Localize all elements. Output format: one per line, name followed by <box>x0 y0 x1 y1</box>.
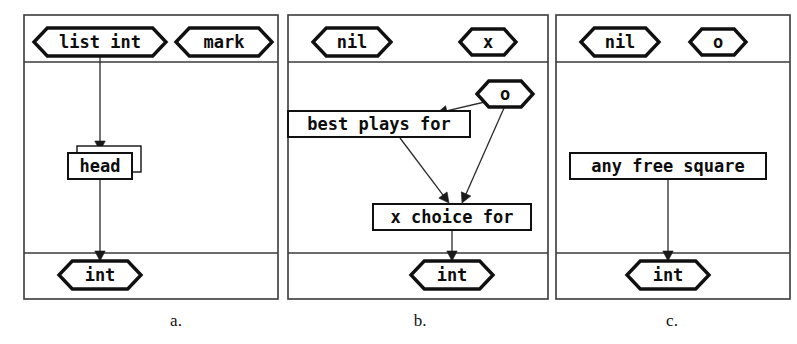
node-label-a-mark: mark <box>204 32 245 52</box>
node-b-nil[interactable]: nil <box>313 28 391 56</box>
figure-container: list intmarkheadinta.nilxobest plays for… <box>0 0 797 344</box>
node-label-b-o: o <box>500 84 510 104</box>
node-label-b-int: int <box>437 265 468 285</box>
node-b-int[interactable]: int <box>411 261 493 289</box>
node-label-a-list-int: list int <box>59 32 141 52</box>
node-a-mark[interactable]: mark <box>176 28 272 56</box>
node-b-x[interactable]: x <box>460 29 516 55</box>
panel-c: niloany free squareintc. <box>556 15 790 330</box>
node-label-c-any-free-square: any free square <box>591 156 745 176</box>
node-label-a-head: head <box>80 156 121 176</box>
node-a-head[interactable]: head <box>68 146 141 179</box>
node-c-int[interactable]: int <box>627 261 709 289</box>
panel-a-caption: a. <box>170 311 182 330</box>
node-label-a-int: int <box>85 265 116 285</box>
panel-b: nilxobest plays forx choice forintb. <box>288 15 548 330</box>
node-c-o[interactable]: o <box>690 29 746 55</box>
panel-b-caption: b. <box>414 311 427 330</box>
node-label-c-o: o <box>713 32 723 52</box>
node-label-c-nil: nil <box>605 32 636 52</box>
node-label-b-best-plays-for: best plays for <box>307 114 450 134</box>
panel-c-caption: c. <box>666 311 678 330</box>
node-c-any-free-square[interactable]: any free square <box>570 153 766 179</box>
node-label-c-int: int <box>653 265 684 285</box>
node-b-best-plays-for[interactable]: best plays for <box>288 111 470 137</box>
diagram-canvas: list intmarkheadinta.nilxobest plays for… <box>0 0 797 344</box>
node-label-b-x-choice-for: x choice for <box>391 207 514 227</box>
node-b-x-choice-for[interactable]: x choice for <box>373 204 531 230</box>
node-a-int[interactable]: int <box>59 261 141 289</box>
node-a-list-int[interactable]: list int <box>34 28 166 56</box>
node-label-b-nil: nil <box>337 32 368 52</box>
panel-a: list intmarkheadinta. <box>24 15 278 330</box>
node-label-b-x: x <box>483 32 493 52</box>
node-c-nil[interactable]: nil <box>581 28 659 56</box>
node-b-o[interactable]: o <box>477 81 533 107</box>
